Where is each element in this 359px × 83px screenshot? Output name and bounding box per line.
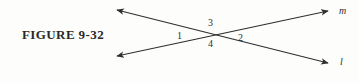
angle-label-4: 4	[208, 39, 213, 49]
geometry-diagram	[0, 0, 359, 83]
angle-label-3: 3	[208, 18, 213, 28]
angle-label-2: 2	[238, 33, 243, 43]
angle-label-1: 1	[177, 31, 182, 41]
figure-container: FIGURE 9-32 1 2 3 4 m l	[0, 0, 359, 83]
line-label-m: m	[339, 6, 346, 16]
line-label-l: l	[340, 57, 343, 67]
